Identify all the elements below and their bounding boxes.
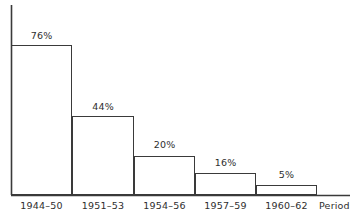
bar-2 — [73, 117, 134, 195]
bar-3 — [135, 157, 195, 195]
x-tick-label-2: 1951–53 — [72, 201, 134, 211]
bar-value-label-3: 20% — [134, 140, 195, 150]
x-tick-label-3: 1954–56 — [134, 201, 195, 211]
x-axis-title: Period — [319, 201, 350, 211]
bar-value-label-1: 76% — [11, 31, 72, 41]
bar-1 — [12, 46, 72, 195]
bar-value-label-2: 44% — [72, 102, 134, 112]
bar-5 — [257, 186, 317, 195]
bar-chart: 76%44%20%16%5% 1944–501951–531954–561957… — [0, 0, 358, 219]
bar-value-label-5: 5% — [256, 170, 317, 180]
bar-value-label-4: 16% — [195, 158, 256, 168]
x-tick-label-4: 1957–59 — [195, 201, 256, 211]
x-tick-label-5: 1960–62 — [256, 201, 317, 211]
bar-4 — [196, 174, 256, 195]
x-tick-label-1: 1944–50 — [11, 201, 72, 211]
